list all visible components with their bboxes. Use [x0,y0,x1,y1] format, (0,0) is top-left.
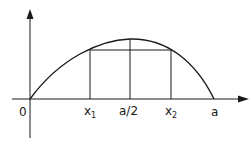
diagram-canvas: 0 x1 a/2 x2 a [0,0,251,146]
a-label: a [211,105,218,119]
y-axis-arrow-icon [27,9,34,19]
x2-label: x2 [165,104,177,120]
x1-label: x1 [84,104,96,120]
origin-label: 0 [19,105,27,119]
parabola-curve [30,39,214,99]
x-axis-arrow-icon [238,96,249,103]
midpoint-label: a/2 [119,104,138,118]
